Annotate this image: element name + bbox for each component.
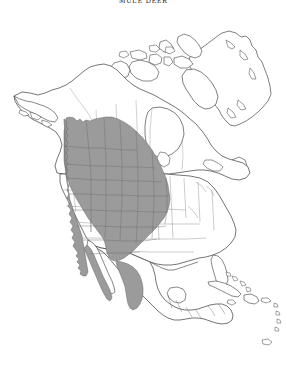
range-map-figure: MULE DEER — [0, 0, 287, 371]
north-america-range-map — [0, 0, 287, 371]
